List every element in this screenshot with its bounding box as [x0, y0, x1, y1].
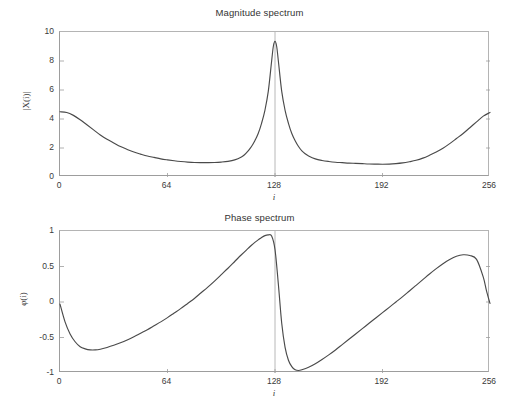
phase-xtick-label-0: 0 [39, 376, 79, 386]
phase-xtick-label-64: 64 [147, 376, 187, 386]
magnitude-xtick-marks [168, 173, 383, 177]
phase-spectrum-subplot: Phase spectrum [0, 200, 519, 415]
magnitude-xtick-label-64: 64 [147, 180, 187, 190]
magnitude-spectrum-subplot: Magnitude spectrum [0, 0, 519, 207]
magnitude-ytick-label-8: 8 [24, 55, 54, 65]
phase-plot-canvas [60, 231, 490, 373]
phase-ytick-label-1: 1 [14, 225, 54, 235]
magnitude-xtick-label-192: 192 [362, 180, 402, 190]
magnitude-ytick-marks [60, 61, 64, 148]
magnitude-ytick-marks-right [486, 61, 490, 148]
magnitude-plot-canvas [60, 32, 490, 177]
phase-axes [59, 230, 489, 372]
magnitude-axes [59, 31, 489, 176]
phase-ytick-label--0.5: -0.5 [14, 332, 54, 342]
magnitude-xtick-label-0: 0 [39, 180, 79, 190]
phase-xtick-label-256: 256 [469, 376, 509, 386]
magnitude-yaxis-label: |X(i)| [21, 71, 31, 131]
phase-xtick-marks [168, 369, 383, 373]
magnitude-plot-title: Magnitude spectrum [0, 7, 519, 18]
phase-xtick-label-128: 128 [254, 376, 294, 386]
phase-ytick-marks [60, 267, 64, 338]
phase-yaxis-label: φ(i) [18, 269, 28, 329]
magnitude-ytick-label-10: 10 [24, 26, 54, 36]
magnitude-ytick-label-2: 2 [24, 142, 54, 152]
magnitude-xtick-label-256: 256 [469, 180, 509, 190]
magnitude-xtick-label-128: 128 [254, 180, 294, 190]
phase-xtick-label-192: 192 [362, 376, 402, 386]
figure-container: Magnitude spectrum [0, 0, 519, 415]
phase-plot-title: Phase spectrum [0, 212, 519, 223]
phase-xaxis-label: i [254, 388, 294, 398]
